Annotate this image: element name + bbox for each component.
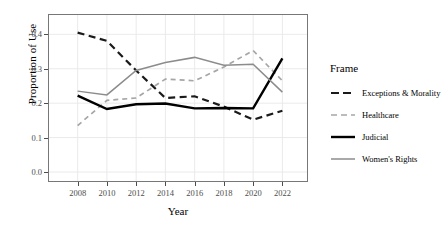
y-tick-mark <box>44 172 48 173</box>
x-tick-label: 2008 <box>62 188 94 198</box>
plot-lines <box>49 15 307 181</box>
x-tick-mark <box>165 182 166 186</box>
chart-figure: Proportion of Use 0.00.10.20.30.4 Year F… <box>0 0 445 228</box>
legend-items: Exceptions & MoralityHealthcareJudicialW… <box>330 82 445 170</box>
x-tick-mark <box>107 182 108 186</box>
legend-item[interactable]: Women's Rights <box>330 148 445 170</box>
x-tick-label: 2010 <box>91 188 123 198</box>
legend-key-icon <box>330 130 356 144</box>
legend-item[interactable]: Healthcare <box>330 104 445 126</box>
y-tick-label: 0.4 <box>20 29 42 39</box>
x-tick-mark <box>136 182 137 186</box>
y-tick-mark <box>44 103 48 104</box>
x-tick-label: 2012 <box>120 188 152 198</box>
legend-item[interactable]: Exceptions & Morality <box>330 82 445 104</box>
legend-item-label: Exceptions & Morality <box>362 88 440 98</box>
y-axis-tick-labels: 0.00.10.20.30.4 <box>18 0 42 228</box>
x-tick-mark <box>282 182 283 186</box>
legend-item-label: Women's Rights <box>362 154 417 164</box>
x-tick-mark <box>253 182 254 186</box>
legend-item-label: Healthcare <box>362 110 399 120</box>
legend-item-label: Judicial <box>362 132 388 142</box>
x-tick-label: 2014 <box>149 188 181 198</box>
y-tick-label: 0.2 <box>20 98 42 108</box>
y-tick-label: 0.1 <box>20 133 42 143</box>
legend-key-icon <box>330 152 356 166</box>
y-tick-mark <box>44 34 48 35</box>
x-tick-label: 2016 <box>179 188 211 198</box>
legend-item[interactable]: Judicial <box>330 126 445 148</box>
x-tick-label: 2022 <box>266 188 298 198</box>
x-tick-mark <box>78 182 79 186</box>
y-tick-label: 0.3 <box>20 64 42 74</box>
x-tick-label: 2020 <box>237 188 269 198</box>
chart-legend: Frame Exceptions & MoralityHealthcareJud… <box>330 62 445 170</box>
y-tick-label: 0.0 <box>20 167 42 177</box>
x-tick-label: 2018 <box>208 188 240 198</box>
legend-key-icon <box>330 86 356 100</box>
x-axis-title: Year <box>48 205 308 217</box>
y-tick-mark <box>44 138 48 139</box>
series-line-women-s-rights <box>78 57 283 95</box>
series-line-healthcare <box>78 51 283 126</box>
plot-panel <box>48 14 308 182</box>
x-tick-mark <box>195 182 196 186</box>
series-line-judicial <box>78 58 283 109</box>
x-tick-mark <box>224 182 225 186</box>
y-tick-mark <box>44 69 48 70</box>
legend-title: Frame <box>330 62 445 74</box>
legend-key-icon <box>330 108 356 122</box>
gridlines <box>49 15 307 181</box>
